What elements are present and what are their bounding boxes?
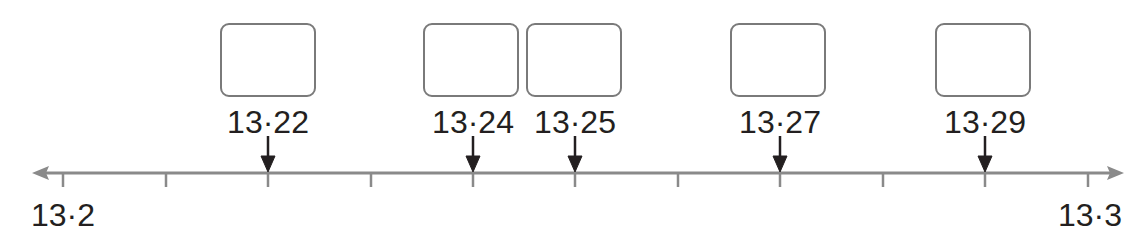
down-arrow-icon	[568, 136, 582, 172]
down-arrow-icon	[978, 136, 992, 172]
answer-box-2[interactable]	[423, 23, 519, 97]
answer-box-4[interactable]	[730, 23, 826, 97]
end-label: 13·3	[1058, 199, 1122, 226]
answer-box-1[interactable]	[220, 23, 316, 97]
point-label-3: 13·25	[534, 106, 616, 138]
down-arrow-icon	[773, 136, 787, 172]
point-label-1: 13·22	[227, 106, 309, 138]
down-arrow-icon	[261, 136, 275, 172]
point-label-4: 13·27	[739, 106, 821, 138]
point-label-2: 13·24	[432, 106, 514, 138]
pointer-arrows	[261, 136, 992, 172]
answer-box-3[interactable]	[526, 23, 622, 97]
start-label: 13·2	[31, 199, 95, 226]
down-arrow-icon	[466, 136, 480, 172]
answer-box-5[interactable]	[935, 23, 1031, 97]
point-label-5: 13·29	[944, 106, 1026, 138]
ticks	[63, 173, 1088, 187]
